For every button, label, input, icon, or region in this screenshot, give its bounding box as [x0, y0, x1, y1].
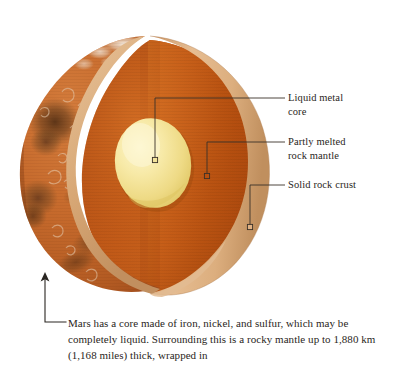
callout-label-solid-rock-crust: Solid rock crust: [288, 178, 394, 192]
leader-marker-core: [152, 157, 157, 162]
leader-marker-mantle: [204, 173, 209, 178]
callout-label-partly-melted-rock-mantle: Partly melted rock mantle: [288, 135, 392, 162]
leader-marker-crust: [247, 224, 252, 229]
mars-interior-diagram-page: Liquid metal core Partly melted rock man…: [0, 0, 397, 382]
mars-globe: [8, 28, 290, 310]
callout-label-liquid-metal-core: Liquid metal core: [288, 91, 392, 118]
caption-pointer-arrow: [41, 272, 66, 322]
figure-caption: Mars has a core made of iron, nickel, an…: [68, 315, 390, 364]
